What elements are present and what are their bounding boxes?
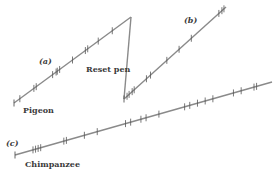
record-c-label: (c)	[6, 138, 18, 148]
reset-pen-annotation: Reset pen	[86, 64, 130, 74]
reset-pen-line	[124, 17, 131, 99]
cumulative-record-diagram: (a) (b) (c) Reset pen Pigeon Chimpanzee	[0, 0, 274, 173]
cumulative-record-plot	[0, 0, 274, 173]
pigeon-label: Pigeon	[23, 105, 54, 115]
record-a-label: (a)	[39, 56, 52, 66]
record-b-label: (b)	[184, 15, 197, 25]
record-line-b	[124, 7, 226, 99]
chimpanzee-label: Chimpanzee	[25, 159, 80, 169]
